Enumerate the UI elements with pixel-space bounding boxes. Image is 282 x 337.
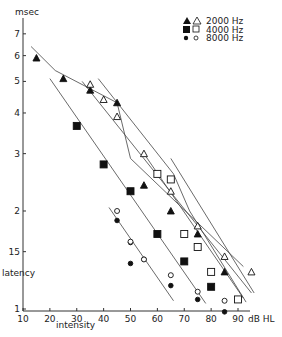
y-tick-label: 15 — [9, 247, 20, 257]
square-marker-icon — [208, 268, 215, 275]
y-axis-title: latency — [2, 268, 36, 278]
square-marker-icon — [100, 161, 107, 168]
square-marker-icon — [194, 244, 201, 251]
filled-circle-icon — [184, 36, 188, 40]
square-marker-icon — [73, 122, 80, 129]
x-axis-title: intensity — [56, 320, 96, 330]
y-tick-label: 5 — [14, 76, 20, 86]
open-triangle-icon — [193, 17, 201, 24]
circle-marker-icon — [222, 298, 227, 303]
triangle-marker-icon — [87, 81, 94, 88]
circle-marker-icon — [128, 261, 133, 266]
circle-marker-icon — [115, 208, 120, 213]
y-tick-label: 1 — [14, 304, 20, 314]
filled-triangle-icon — [183, 17, 191, 24]
circle-marker-icon — [168, 273, 173, 278]
legend-label-8000: 8000 Hz — [206, 33, 244, 43]
y-tick-label: 6 — [14, 51, 20, 61]
triangle-marker-icon — [194, 230, 201, 237]
x-tick-label: 40 — [98, 314, 110, 324]
data-points — [33, 55, 255, 315]
y-tick-label: 7 — [14, 29, 20, 39]
triangle-marker-icon — [248, 268, 255, 275]
y-tick-label: 2 — [14, 206, 20, 216]
triangle-marker-icon — [167, 207, 174, 214]
y-tick-label: 4 — [14, 108, 20, 118]
triangle-marker-icon — [140, 182, 147, 189]
x-tick-label: 60 — [152, 314, 164, 324]
legend: 2000 Hz 4000 Hz 8000 Hz — [183, 16, 244, 43]
circle-marker-icon — [128, 239, 133, 244]
x-tick-label: 70 — [179, 314, 191, 324]
square-marker-icon — [181, 230, 188, 237]
square-marker-icon — [127, 188, 134, 195]
circle-marker-icon — [195, 289, 200, 294]
y-tick-label: 3 — [14, 149, 20, 159]
x-unit-label: dB HL — [248, 314, 275, 324]
fit-lines — [31, 47, 254, 304]
filled-square-icon — [183, 26, 190, 33]
x-tick-label: 50 — [125, 314, 137, 324]
x-tick-label: 20 — [44, 314, 56, 324]
square-marker-icon — [167, 176, 174, 183]
triangle-marker-icon — [140, 150, 147, 157]
x-ticks: 102030405060708090 — [17, 308, 244, 324]
circle-marker-icon — [222, 310, 227, 315]
square-marker-icon — [235, 296, 242, 303]
square-marker-icon — [181, 258, 188, 265]
x-tick-label: 90 — [232, 314, 244, 324]
y-unit-label: msec — [15, 7, 39, 17]
square-marker-icon — [154, 230, 161, 237]
triangle-marker-icon — [114, 99, 121, 106]
square-marker-icon — [208, 283, 215, 290]
circle-marker-icon — [141, 257, 146, 262]
open-circle-icon — [194, 36, 198, 40]
latency-intensity-chart: 115234567 102030405060708090 msec latenc… — [0, 0, 282, 337]
circle-marker-icon — [169, 283, 174, 288]
square-marker-icon — [154, 170, 161, 177]
x-tick-label: 80 — [205, 314, 217, 324]
circle-marker-icon — [195, 297, 200, 302]
circle-marker-icon — [115, 218, 120, 223]
triangle-marker-icon — [33, 55, 40, 62]
open-square-icon — [193, 26, 199, 32]
x-tick-label: 10 — [17, 314, 29, 324]
